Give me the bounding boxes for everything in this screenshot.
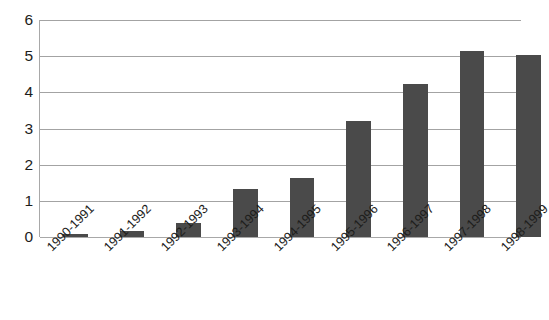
y-tick-label: 6 — [0, 12, 33, 28]
y-tick-label: 3 — [0, 121, 33, 137]
bar-chart: 0123456 1990-19911991-19921992-19931993-… — [0, 0, 549, 320]
y-tick-label: 5 — [0, 48, 33, 64]
plot-area — [39, 20, 549, 237]
bars — [40, 20, 549, 237]
y-tick-label: 2 — [0, 157, 33, 173]
y-tick-label: 1 — [0, 193, 33, 209]
y-tick-label: 4 — [0, 84, 33, 100]
x-axis: 1990-19911991-19921992-19931993-19941994… — [0, 237, 549, 320]
